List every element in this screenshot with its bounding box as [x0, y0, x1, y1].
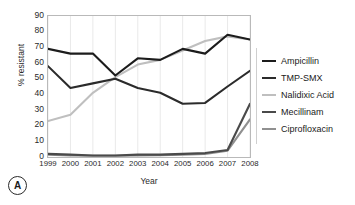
- y-tick-label: 30: [22, 105, 44, 114]
- legend-divider: [256, 48, 257, 144]
- figure-panel-a: A % resistant 0102030405060708090 199920…: [0, 0, 355, 205]
- legend-item-ciprofloxacin[interactable]: Ciprofloxacin: [262, 120, 355, 137]
- legend-item-mecillinam[interactable]: Mecillinam: [262, 103, 355, 120]
- legend-swatch-tmp-smx: [262, 77, 276, 79]
- series-line-tmp-smx: [48, 66, 250, 104]
- legend-label-mecillinam: Mecillinam: [281, 107, 324, 117]
- y-tick-label: 70: [22, 42, 44, 51]
- series-line-ampicillin: [48, 35, 250, 76]
- legend-item-nalidixic-acid[interactable]: Nalidixic Acid: [262, 86, 355, 103]
- x-axis-tick-labels: 1999200020012002200320042005200620072008: [47, 160, 251, 174]
- y-tick-label: 50: [22, 73, 44, 82]
- y-tick-label: 40: [22, 89, 44, 98]
- x-axis-title: Year: [47, 176, 251, 186]
- y-tick-label: 60: [22, 58, 44, 67]
- legend-label-ciprofloxacin: Ciprofloxacin: [281, 124, 333, 134]
- x-tick-label: 2008: [237, 160, 263, 168]
- legend-label-nalidixic-acid: Nalidixic Acid: [281, 90, 334, 100]
- line-chart-svg: [48, 16, 250, 157]
- legend-swatch-ampicillin: [262, 60, 276, 62]
- y-tick-label: 10: [22, 136, 44, 145]
- legend-swatch-ciprofloxacin: [262, 128, 276, 130]
- chart-legend: AmpicillinTMP-SMXNalidixic AcidMecillina…: [262, 52, 355, 137]
- legend-label-tmp-smx: TMP-SMX: [281, 73, 323, 83]
- y-tick-label: 20: [22, 120, 44, 129]
- legend-swatch-mecillinam: [262, 111, 276, 113]
- y-tick-label: 80: [22, 26, 44, 35]
- legend-item-ampicillin[interactable]: Ampicillin: [262, 52, 355, 69]
- plot-area: [47, 15, 251, 158]
- series-line-nalidixic-acid: [48, 36, 250, 121]
- legend-item-tmp-smx[interactable]: TMP-SMX: [262, 69, 355, 86]
- y-axis-tick-labels: 0102030405060708090: [20, 0, 44, 205]
- series-line-mecillinam: [48, 104, 250, 156]
- legend-swatch-nalidixic-acid: [262, 94, 276, 96]
- y-tick-label: 90: [22, 11, 44, 20]
- legend-label-ampicillin: Ampicillin: [281, 56, 319, 66]
